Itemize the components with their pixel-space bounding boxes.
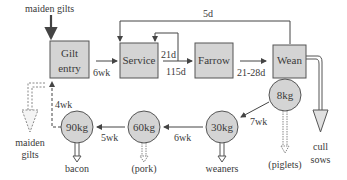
- maiden-gilts-output-path: [28, 83, 45, 110]
- weaners-label: weaners: [206, 163, 239, 174]
- weight-8kg-label: 8kg: [277, 89, 294, 101]
- 60-to-90-label: 5wk: [101, 132, 118, 143]
- cull-sows-path: [306, 56, 322, 110]
- pork-path: [142, 143, 146, 156]
- cull-label-2: sows: [310, 154, 330, 165]
- service-box: Service: [120, 43, 158, 78]
- wean-to-service-loop: [120, 21, 290, 44]
- gilt-entry-label-1: Gilt: [61, 47, 78, 59]
- wean-box: Wean: [273, 45, 306, 78]
- pig-production-diagram: maiden gilts 5d Gilt entry Service Farro…: [0, 0, 347, 180]
- bacon-label: bacon: [65, 163, 89, 174]
- bacon-arrowhead: [73, 156, 81, 162]
- maiden-gilts-output-label-1: maiden: [15, 137, 44, 148]
- cull-label-1: cull: [313, 141, 328, 152]
- service-to-farrow-label: 115d: [166, 66, 186, 77]
- maiden-gilts-output-arrowhead: [22, 110, 38, 132]
- bacon-path: [75, 143, 79, 156]
- piglets-arrowhead: [281, 146, 289, 153]
- 90-to-gilt-label: 4wk: [55, 99, 72, 110]
- wean-to-30-label: 7wk: [250, 116, 267, 127]
- farrow-label: Farrow: [198, 54, 230, 66]
- gilt-entry-box: Gilt entry: [50, 41, 89, 78]
- service-label: Service: [123, 54, 156, 66]
- weight-60kg-circle: 60kg: [128, 111, 160, 143]
- weight-90kg-circle: 90kg: [61, 111, 93, 143]
- loop-5d-label: 5d: [203, 8, 213, 19]
- maiden-gilts-output-label-2: gilts: [21, 149, 38, 160]
- pork-arrowhead: [140, 156, 148, 162]
- weight-8kg-circle: 8kg: [269, 79, 301, 111]
- weaners-arrowhead: [218, 156, 226, 162]
- weight-90kg-label: 90kg: [66, 121, 89, 133]
- maiden-gilts-input-label: maiden gilts: [25, 3, 74, 14]
- weight-30kg-circle: 30kg: [206, 111, 238, 143]
- piglets-path: [283, 111, 287, 146]
- 30-to-60-label: 6wk: [174, 132, 191, 143]
- farrow-to-wean-label: 21-28d: [237, 67, 265, 78]
- wean-label: Wean: [277, 54, 302, 66]
- pork-label: (pork): [132, 163, 157, 175]
- 8-to-30-arrow: [241, 102, 269, 117]
- farrow-box: Farrow: [195, 43, 233, 78]
- weight-60kg-label: 60kg: [133, 121, 156, 133]
- piglets-label: (piglets): [268, 159, 301, 171]
- weaners-path: [220, 143, 224, 156]
- gilt-to-service-label: 6wk: [93, 67, 110, 78]
- gilt-entry-label-2: entry: [58, 62, 81, 74]
- service-loop-label: 21d: [161, 49, 176, 60]
- weight-30kg-label: 30kg: [211, 121, 234, 133]
- cull-sows-arrowhead: [313, 110, 328, 132]
